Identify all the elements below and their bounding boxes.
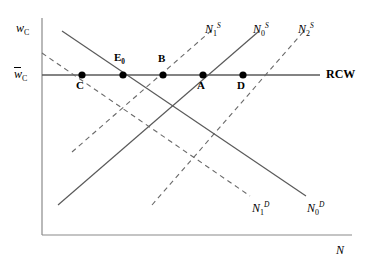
point-label-b: B <box>158 53 165 64</box>
reservation-wage-base: w <box>14 68 22 80</box>
point-marker-c <box>78 71 85 78</box>
reservation-wage-sub: C <box>22 74 27 83</box>
point-marker-d <box>239 71 246 78</box>
curve-label-n0s: N0S <box>253 22 269 38</box>
point-label-a: A <box>197 80 205 91</box>
curve-label-n0s-sup: S <box>265 21 269 30</box>
curve-label-n1s-sup: S <box>217 21 221 30</box>
curve-label-n2s-sup: S <box>310 21 314 30</box>
curve-label-n0s-base: N <box>253 22 261 36</box>
curve-label-n0d-sup: D <box>319 200 324 209</box>
curve-label-n0d-base: N <box>307 201 315 215</box>
curve-label-n1s-sub: 1 <box>213 29 217 38</box>
x-axis-label: N <box>336 244 344 256</box>
supply-curve-n1s <box>72 30 212 152</box>
point-marker-a <box>199 71 206 78</box>
diagram-canvas <box>0 0 366 266</box>
point-label-e0: E0 <box>114 52 125 66</box>
rcw-label: RCW <box>326 68 355 80</box>
point-label-d: D <box>237 80 245 91</box>
curve-label-n1s: N1S <box>205 22 221 38</box>
point-marker-b <box>159 71 166 78</box>
y-axis-label-sub: C <box>24 28 29 37</box>
curve-label-n2s-base: N <box>298 22 306 36</box>
point-marker-e0 <box>119 71 126 78</box>
curve-label-n0d-sub: 0 <box>315 208 319 217</box>
curve-label-n2s: N2S <box>298 22 314 38</box>
y-axis-label-base: w <box>16 21 24 35</box>
curve-label-n1d-base: N <box>252 201 260 215</box>
curve-label-n1d: N1D <box>252 201 269 217</box>
demand-curve-n0d <box>62 31 306 196</box>
curve-label-n0d: N0D <box>307 201 324 217</box>
curve-label-n0s-sub: 0 <box>261 29 265 38</box>
reservation-wage-tick-label: wC <box>14 68 27 83</box>
curve-label-n1d-sup: D <box>264 200 269 209</box>
point-label-e0-sub: 0 <box>121 58 125 66</box>
curve-label-n1s-base: N <box>205 22 213 36</box>
curve-label-n1d-sub: 1 <box>260 208 264 217</box>
labor-market-diagram: wC wC RCW N N1S N0S N2S N1D N0D C E0 B A… <box>0 0 366 266</box>
y-axis-label: wC <box>16 22 29 37</box>
point-label-c: C <box>76 80 84 91</box>
curve-label-n2s-sub: 2 <box>306 29 310 38</box>
